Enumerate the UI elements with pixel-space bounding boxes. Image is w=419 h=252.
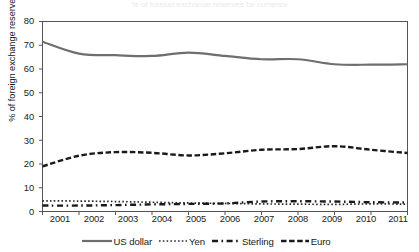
legend-item-euro[interactable]: Euro: [280, 236, 331, 247]
y-axis-ticks: [39, 22, 43, 212]
plot-area-wrapper: % of foreign exchange reserves 80 70 60 …: [0, 0, 419, 252]
legend-item-yen[interactable]: Yen: [158, 236, 205, 247]
y-tick-label: 80: [16, 16, 34, 26]
legend-label: US dollar: [113, 236, 152, 247]
plot-frame: [43, 22, 408, 212]
y-tick-label: 40: [16, 112, 34, 122]
y-tick-label: 30: [16, 136, 34, 146]
data-series-group: [43, 42, 408, 206]
legend-line-solid-icon: [82, 236, 112, 246]
legend-line-dotted-icon: [158, 236, 188, 246]
axes-group: [43, 22, 408, 212]
y-tick-label: 70: [16, 40, 34, 50]
y-tick-label: 50: [16, 88, 34, 98]
y-tick-label: 10: [16, 183, 34, 193]
series-line-us-dollar: [43, 42, 408, 65]
chart-figure: % of foreign exchange reserves by curren…: [0, 0, 419, 252]
legend-label: Sterling: [242, 236, 274, 247]
chart-legend: US dollar Yen Sterling Euro: [0, 232, 419, 250]
series-line-euro: [43, 146, 408, 166]
legend-line-dash-dot-icon: [211, 236, 241, 246]
legend-item-sterling[interactable]: Sterling: [211, 236, 274, 247]
legend-label: Yen: [189, 236, 205, 247]
x-tick-label: 2011: [378, 213, 418, 224]
y-tick-label: 20: [16, 159, 34, 169]
legend-line-dashed-icon: [280, 236, 310, 246]
y-tick-label: 60: [16, 64, 34, 74]
legend-label: Euro: [311, 236, 331, 247]
x-axis-tick-labels: 2001 2002 2003 2004 2005 2006 2007 2008 …: [0, 213, 419, 226]
legend-item-us-dollar[interactable]: US dollar: [82, 236, 152, 247]
